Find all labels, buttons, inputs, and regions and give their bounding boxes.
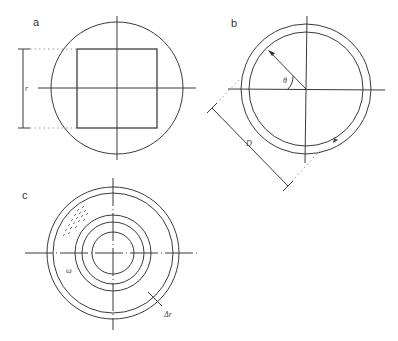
panel-b-dimension-label: D (245, 139, 252, 148)
panel-a-label: a (33, 16, 40, 28)
panel-c-marker-label: ω (66, 266, 72, 275)
panel-c-dimension-label: Δr (163, 310, 173, 319)
panel-b-angle-arc (288, 76, 293, 89)
panel-c-shading (63, 206, 88, 236)
panel-b-arrowhead-icon (268, 50, 275, 56)
panel-a: a r (18, 16, 196, 160)
panel-b-angle-label: θ (283, 76, 287, 85)
panel-a-dimension-label: r (25, 84, 29, 93)
diagram-canvas: a r b θ D c (0, 0, 398, 341)
panel-c: c ω Δr (22, 178, 200, 330)
panel-c-label: c (22, 189, 28, 201)
panel-b: b θ D (207, 16, 385, 191)
panel-b-radius-arrow (269, 51, 306, 89)
panel-b-horizontal-axis (228, 89, 385, 90)
panel-b-extension-top (213, 75, 244, 107)
panel-b-label: b (231, 17, 237, 29)
